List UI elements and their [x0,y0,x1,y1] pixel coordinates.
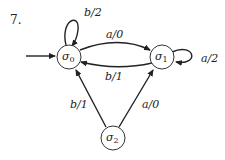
label-s1-s0: b/1 [105,70,123,83]
problem-number: 7. [10,13,21,27]
transition-s0-s0 [65,20,78,46]
label-s0-s0: b/2 [84,6,102,19]
label-s0-s1: a/0 [106,28,123,41]
state-s2: σ2 [101,126,125,150]
label-s2-s1: a/0 [142,98,159,111]
transition-s1-s0 [81,62,152,67]
transition-s0-s1 [80,43,150,51]
transition-s1-s1 [172,50,192,63]
label-s1-s1: a/2 [201,52,218,65]
state-s0: σ0 [57,45,81,69]
state-s1: σ1 [150,45,174,69]
label-s2-s0: b/1 [70,98,88,111]
state-diagram: 7. b/2 a/0 b/1 a/2 b/1 a/0 σ0 σ1 σ2 [0,0,225,160]
